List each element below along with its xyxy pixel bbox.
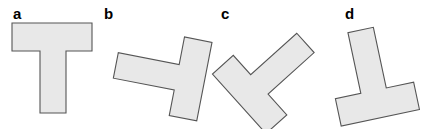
shapes-svg: a b c d xyxy=(0,0,423,129)
panel-label-c: c xyxy=(221,5,229,22)
panel-label-b: b xyxy=(104,5,113,22)
panel-label-d: d xyxy=(345,5,354,22)
figure-canvas: a b c d xyxy=(0,0,423,129)
panel-label-a: a xyxy=(13,5,22,22)
